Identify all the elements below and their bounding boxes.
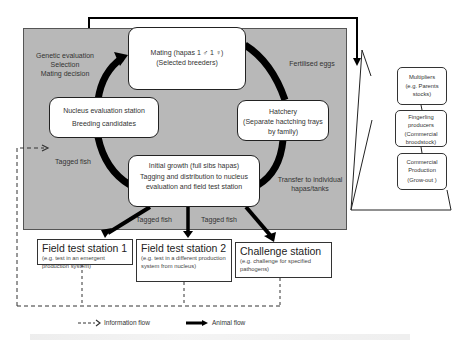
multipliers-box: Multipliers (e.g. Parents stocks) [397,67,447,105]
arc-growth-to-nucleus [98,137,130,185]
label-transfer: Transfer to individual hapas/tanks [270,175,350,193]
nucleus-evaluation-box: Nucleus evaluation station Breeding cand… [49,97,159,138]
label-tagged-fish-left: Tagged fish [50,157,96,166]
fingerling-producers-box: Fingerling producers (Commercial broodst… [395,110,447,147]
commercial-production-box: Commercial Production (Grow-out ) [397,153,447,190]
mating-title: Mating (hapas 1 ♂ 1 ♀) [129,48,245,58]
hatchery-box: Hatchery (Separate hactching trays by fa… [237,100,329,141]
field-test-station-1: Field test station 1 (e.g. test in an em… [37,239,133,265]
label-tagged-fish-mid-left: Tagged fish [131,215,177,224]
nucleus-subtitle: Breeding candidates [50,119,158,129]
hatchery-subtitle: (Separate hactching trays by family) [238,117,328,137]
field-test-station-2: Field test station 2 (e.g. test in a dif… [136,239,232,282]
initial-growth-subtitle: Tagging and distribution to nucleus eval… [129,171,259,192]
initial-growth-title: Initial growth (full sibs hapas) [129,161,259,171]
nucleus-title: Nucleus evaluation station [50,106,158,116]
arrow-to-multipliers-icon [353,58,361,66]
initial-growth-box: Initial growth (full sibs hapas) Tagging… [128,155,260,207]
hatchery-title: Hatchery [238,107,328,117]
legend-information-flow: Information flow [104,319,150,327]
label-fertilised-eggs: Fertilised eggs [282,59,342,68]
challenge-station: Challenge station (e.g. challenge for sp… [235,242,332,278]
legend-animal-flow: Animal flow [212,319,245,327]
figure-caption-cropped [30,334,410,340]
label-tagged-fish-mid-right: Tagged fish [196,215,242,224]
mating-box: Mating (hapas 1 ♂ 1 ♀) (Selected breeder… [128,27,246,90]
arc-mating-to-hatchery [245,45,285,100]
arc-nucleus-to-mating [98,58,122,100]
mating-subtitle: (Selected breeders) [129,58,245,68]
label-genetic-evaluation: Genetic evaluation Selection Mating deci… [30,51,100,78]
